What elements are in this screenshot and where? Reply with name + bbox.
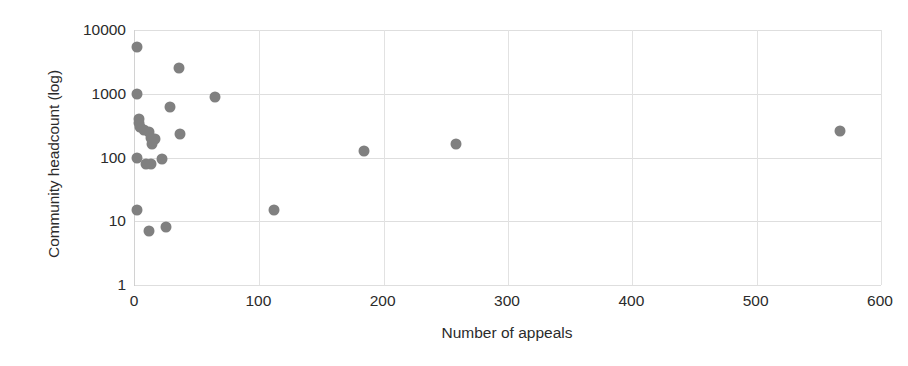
data-point — [132, 88, 143, 99]
data-point — [174, 129, 185, 140]
x-axis-title: Number of appeals — [134, 324, 880, 342]
data-point — [132, 41, 143, 52]
gridline-vertical — [881, 30, 882, 285]
x-tick-label: 600 — [840, 292, 908, 309]
y-tick-label: 10 — [56, 214, 126, 230]
y-tick-label: 100 — [56, 150, 126, 166]
plot-area — [134, 30, 881, 286]
data-point — [147, 139, 158, 150]
gridline-vertical — [508, 30, 509, 285]
data-point — [157, 153, 168, 164]
x-tick-label: 500 — [716, 292, 796, 309]
x-tick-label: 0 — [94, 292, 174, 309]
data-point — [132, 205, 143, 216]
gridline-vertical — [259, 30, 260, 285]
x-tick-label: 100 — [218, 292, 298, 309]
x-tick-label: 300 — [467, 292, 547, 309]
gridline-vertical — [757, 30, 758, 285]
data-point — [450, 138, 461, 149]
x-axis-tick-labels: 0100200300400500600 — [134, 292, 880, 316]
data-point — [164, 101, 175, 112]
y-tick-label: 1000 — [56, 86, 126, 102]
y-tick-label: 1 — [56, 277, 126, 293]
gridline-vertical — [632, 30, 633, 285]
data-point — [269, 205, 280, 216]
data-point — [173, 63, 184, 74]
y-tick-label: 10000 — [56, 22, 126, 38]
data-point — [834, 125, 845, 136]
gridline-vertical — [384, 30, 385, 285]
scatter-chart: Community headcount (log) 11010010001000… — [0, 0, 908, 366]
y-axis-tick-labels: 110100100010000 — [52, 0, 126, 366]
data-point — [358, 146, 369, 157]
data-point — [146, 159, 157, 170]
x-tick-label: 200 — [343, 292, 423, 309]
x-tick-label: 400 — [591, 292, 671, 309]
data-point — [143, 226, 154, 237]
gridline-horizontal — [135, 285, 881, 286]
data-point — [209, 92, 220, 103]
data-point — [161, 222, 172, 233]
